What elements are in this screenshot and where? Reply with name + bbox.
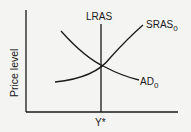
y-star-label: Y*: [95, 117, 106, 128]
ad-curve: [61, 31, 139, 80]
lras-label: LRAS: [86, 11, 112, 22]
sras-label: SRAS0: [146, 19, 178, 33]
as-ad-diagram: Price level LRAS SRAS0 AD0 Y*: [0, 0, 191, 132]
sras-curve: [55, 25, 143, 82]
y-axis-label: Price level: [8, 49, 20, 97]
ad-label: AD0: [140, 76, 159, 90]
